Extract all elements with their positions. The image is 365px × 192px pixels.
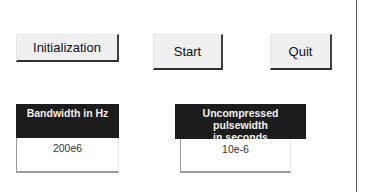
bandwidth-input[interactable]: 200e6 xyxy=(16,138,119,173)
bandwidth-value: 200e6 xyxy=(53,142,82,154)
pulsewidth-value: 10e-6 xyxy=(222,143,249,155)
start-button[interactable]: Start xyxy=(153,34,223,70)
quit-button-label: Quit xyxy=(289,44,313,59)
pulsewidth-label-line1: Uncompressed pulsewidth xyxy=(175,107,306,131)
pulsewidth-input[interactable]: 10e-6 xyxy=(180,139,291,173)
bandwidth-label: Bandwidth in Hz xyxy=(16,104,119,138)
pulsewidth-label: Uncompressed pulsewidth in seconds xyxy=(175,104,306,139)
quit-button[interactable]: Quit xyxy=(270,34,332,70)
initialization-button-label: Initialization xyxy=(33,40,101,55)
start-button-label: Start xyxy=(174,44,201,59)
bandwidth-label-text: Bandwidth in Hz xyxy=(27,107,109,119)
initialization-button[interactable]: Initialization xyxy=(16,34,119,62)
vertical-divider xyxy=(356,0,357,192)
